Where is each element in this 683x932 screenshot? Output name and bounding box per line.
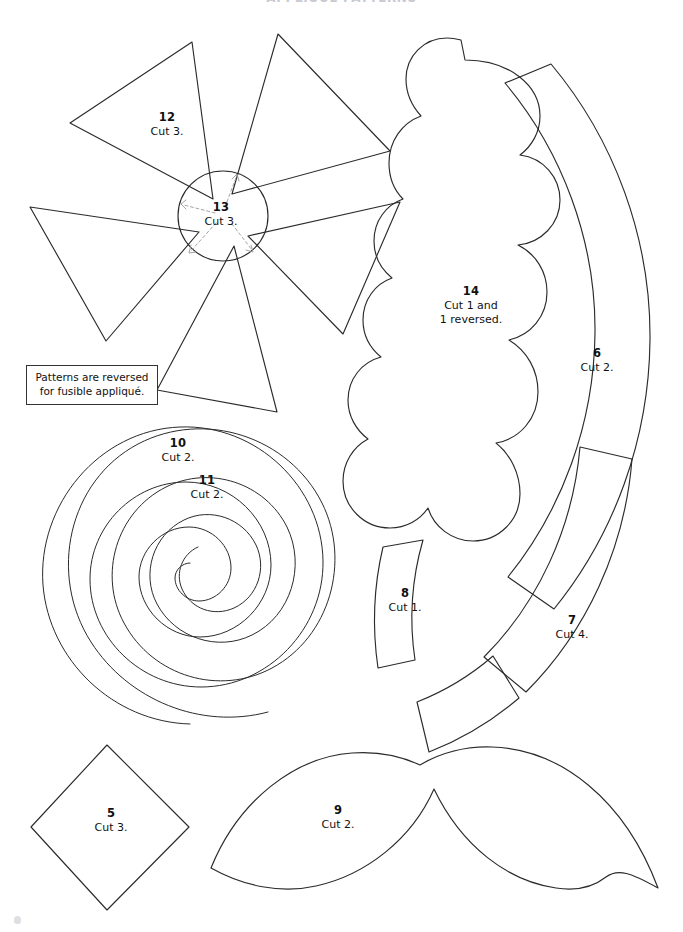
- note-line-2: for fusible appliqué.: [33, 385, 151, 399]
- piece-13-cut: Cut 3.: [205, 215, 238, 229]
- pattern-line-art: [0, 0, 683, 932]
- piece-label-11: 11 Cut 2.: [191, 473, 224, 502]
- piece-14-number: 14: [440, 284, 502, 299]
- scan-artifact-speck: [14, 916, 21, 924]
- piece-12-number: 12: [151, 110, 184, 125]
- piece-7-cut: Cut 4.: [556, 628, 589, 642]
- piece-8-cut: Cut 1.: [389, 601, 422, 615]
- piece-7-lower-arc: [417, 656, 519, 752]
- piece-9-cut: Cut 2.: [322, 818, 355, 832]
- piece-9-number: 9: [322, 803, 355, 818]
- piece-6-cut: Cut 2.: [581, 361, 614, 375]
- piece-9-double-leaf: [211, 747, 658, 889]
- fusible-applique-note: Patterns are reversed for fusible appliq…: [26, 365, 158, 405]
- piece-11-number: 11: [191, 473, 224, 488]
- piece-label-6: 6 Cut 2.: [581, 346, 614, 375]
- piece-7-number: 7: [556, 613, 589, 628]
- piece-10-number: 10: [162, 436, 195, 451]
- piece-label-5: 5 Cut 3.: [95, 806, 128, 835]
- piece-6-outer-arc: [505, 64, 650, 609]
- piece-10-11-spiral: [43, 427, 335, 724]
- piece-7-inner-arc: [484, 447, 632, 692]
- piece-label-10: 10 Cut 2.: [162, 436, 195, 465]
- piece-label-8: 8 Cut 1.: [389, 586, 422, 615]
- piece-label-13: 13 Cut 3.: [205, 200, 238, 229]
- piece-12-cut: Cut 3.: [151, 125, 184, 139]
- piece-8-number: 8: [389, 586, 422, 601]
- piece-label-9: 9 Cut 2.: [322, 803, 355, 832]
- pattern-sheet: APPLIQUÉ PATTERNS: [0, 0, 683, 932]
- piece-6-number: 6: [581, 346, 614, 361]
- piece-label-14: 14 Cut 1 and 1 reversed.: [440, 284, 502, 327]
- piece-14-cut-1: Cut 1 and: [440, 299, 502, 313]
- piece-10-cut: Cut 2.: [162, 451, 195, 465]
- note-line-1: Patterns are reversed: [33, 371, 151, 385]
- piece-14-cut-2: 1 reversed.: [440, 313, 502, 327]
- piece-5-number: 5: [95, 806, 128, 821]
- piece-5-cut: Cut 3.: [95, 821, 128, 835]
- piece-label-12: 12 Cut 3.: [151, 110, 184, 139]
- piece-11-cut: Cut 2.: [191, 488, 224, 502]
- piece-13-number: 13: [205, 200, 238, 215]
- piece-label-7: 7 Cut 4.: [556, 613, 589, 642]
